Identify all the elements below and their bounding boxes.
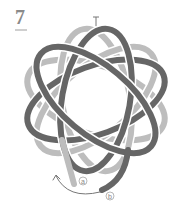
curved-arrow-icon bbox=[56, 176, 100, 194]
svg-text:a: a bbox=[81, 178, 85, 185]
knot-diagram: a b bbox=[0, 0, 185, 213]
label-a: a bbox=[79, 177, 87, 185]
dark-strand bbox=[17, 23, 176, 177]
label-b: b bbox=[106, 192, 114, 200]
svg-text:b: b bbox=[108, 193, 112, 200]
